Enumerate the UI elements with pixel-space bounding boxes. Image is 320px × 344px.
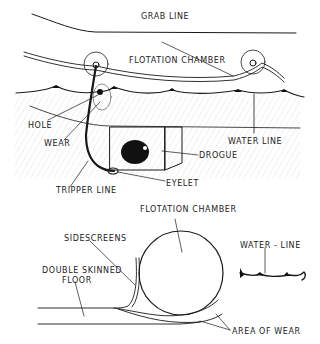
double-skinned-floor-upper [38, 300, 218, 316]
water-line-surface [240, 272, 305, 280]
chamber-leader [175, 219, 182, 252]
label-flotation-chamber: FLOTATION CHAMBER [129, 56, 226, 65]
label-flotation-chamber-bottom: FLOTATION CHAMBER [140, 205, 237, 214]
floor-leader [75, 282, 84, 316]
label-tripper-line: TRIPPER LINE [55, 186, 117, 195]
label-wear: WEAR [44, 139, 70, 148]
grab-ring-right-eye [250, 60, 256, 66]
label-hole: HOLE [28, 121, 52, 130]
wear-leader-1 [200, 321, 230, 330]
hull-shading [14, 94, 300, 178]
bottom-diagram: FLOTATION CHAMBER SIDESCREENS WATER - LI… [38, 205, 305, 336]
label-water-line: WATER LINE [228, 137, 282, 146]
label-double-skinned: DOUBLE SKINNED [42, 266, 122, 275]
label-floor: FLOOR [62, 276, 92, 285]
label-area-of-wear: AREA OF WEAR [232, 327, 301, 336]
liferaft-diagram: GRAB LINE FLOTATION CHAMBER HOLE WEAR WA… [0, 0, 320, 344]
hole-icon [97, 89, 103, 95]
label-water-line-bottom: WATER - LINE [240, 241, 301, 250]
label-drogue: DROGUE [199, 151, 238, 160]
label-eyelet: EYELET [166, 179, 199, 188]
sidescreens-leader [90, 241, 135, 285]
label-grab-line: GRAB LINE [141, 12, 189, 21]
top-diagram: GRAB LINE FLOTATION CHAMBER HOLE WEAR WA… [14, 12, 304, 195]
flotation-chamber-section [139, 231, 223, 315]
label-sidescreens: SIDESCREENS [64, 234, 127, 243]
grab-ring-right [241, 50, 265, 74]
